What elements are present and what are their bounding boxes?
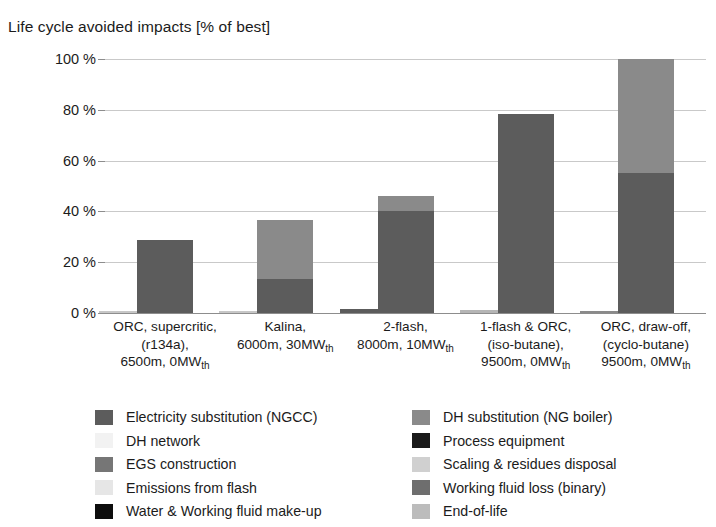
bar-segment [257, 279, 313, 313]
legend-column-left: Electricity substitution (NGCC)DH networ… [95, 406, 395, 524]
legend-column-right: DH substitution (NG boiler)Process equip… [412, 406, 712, 524]
x-axis-labels: ORC, supercritic,(r134a),6500m, 0MWthKal… [105, 318, 706, 392]
y-axis-tick-label: 80 % [10, 102, 96, 118]
y-axis-tick-label: 20 % [10, 254, 96, 270]
y-axis-tick-label: 40 % [10, 203, 96, 219]
legend-item-label: DH substitution (NG boiler) [443, 409, 613, 425]
bar-segment [378, 211, 434, 313]
legend-swatch-icon [95, 433, 113, 448]
legend-item[interactable]: EGS construction [95, 453, 395, 475]
bar-secondary [460, 310, 500, 313]
y-axis-tick-mark [98, 313, 105, 314]
legend-item-label: Emissions from flash [126, 480, 257, 496]
legend-item[interactable]: DH network [95, 430, 395, 452]
legend-item[interactable]: End-of-life [412, 500, 712, 522]
bar-secondary [219, 311, 259, 313]
y-axis-tick-mark [98, 110, 105, 111]
y-axis-tick-label: 100 % [10, 51, 96, 67]
y-axis-tick-mark [98, 161, 105, 162]
x-axis-label: 1-flash & ORC,(iso-butane),9500m, 0MWth [466, 318, 586, 371]
legend-swatch-icon [412, 410, 430, 425]
x-axis-label: ORC, supercritic,(r134a),6500m, 0MWth [105, 318, 225, 371]
bar-stack [257, 59, 313, 313]
y-axis-tick-label: 0 % [10, 305, 96, 321]
legend-swatch-icon [412, 433, 430, 448]
y-axis-tick-mark [98, 211, 105, 212]
y-axis-tick-mark [98, 262, 105, 263]
x-axis-label: 2-flash,8000m, 10MWth [345, 318, 465, 353]
legend-swatch-icon [95, 410, 113, 425]
legend-swatch-icon [412, 480, 430, 495]
bar-segment [378, 196, 434, 212]
bar-segment [498, 114, 554, 313]
legend-item-label: Process equipment [443, 433, 564, 449]
bar-secondary [580, 311, 620, 313]
chart-title: Life cycle avoided impacts [% of best] [8, 18, 270, 36]
legend-item-label: Electricity substitution (NGCC) [126, 409, 318, 425]
legend-swatch-icon [95, 457, 113, 472]
x-axis-label: ORC, draw-off,(cyclo-butane)9500m, 0MWth [586, 318, 706, 371]
legend-item[interactable]: Water & Working fluid make-up [95, 500, 395, 522]
chart-container: Life cycle avoided impacts [% of best] 1… [0, 0, 716, 527]
plot-area [105, 59, 706, 313]
legend-item[interactable]: Emissions from flash [95, 477, 395, 499]
legend-item-label: DH network [126, 433, 200, 449]
y-axis-tick-label: 60 % [10, 153, 96, 169]
legend-swatch-icon [95, 504, 113, 519]
y-axis: 100 %80 %60 %40 %20 %0 % [0, 59, 96, 313]
legend-item-label: Water & Working fluid make-up [126, 503, 322, 519]
legend-item[interactable]: DH substitution (NG boiler) [412, 406, 712, 428]
legend-item[interactable]: Working fluid loss (binary) [412, 477, 712, 499]
legend-item[interactable]: Process equipment [412, 430, 712, 452]
bar-segment [618, 173, 674, 313]
legend-item-label: End-of-life [443, 503, 508, 519]
bar-stack [378, 59, 434, 313]
legend-item-label: Scaling & residues disposal [443, 456, 617, 472]
legend-item[interactable]: Electricity substitution (NGCC) [95, 406, 395, 428]
bar-segment [257, 220, 313, 278]
bar-segment [618, 59, 674, 173]
bar-stack [618, 59, 674, 313]
x-axis-label: Kalina,6000m, 30MWth [225, 318, 345, 353]
legend-swatch-icon [412, 504, 430, 519]
bar-secondary [99, 311, 139, 313]
legend-item-label: Working fluid loss (binary) [443, 480, 606, 496]
bar-secondary [340, 309, 380, 313]
legend-swatch-icon [412, 457, 430, 472]
legend-swatch-icon [95, 480, 113, 495]
chart-legend: Electricity substitution (NGCC)DH networ… [0, 406, 716, 524]
y-axis-tick-mark [98, 59, 105, 60]
bar-stack [498, 59, 554, 313]
x-axis-line [105, 313, 706, 314]
bar-segment [137, 240, 193, 313]
legend-item[interactable]: Scaling & residues disposal [412, 453, 712, 475]
legend-item-label: EGS construction [126, 456, 236, 472]
bar-stack [137, 59, 193, 313]
